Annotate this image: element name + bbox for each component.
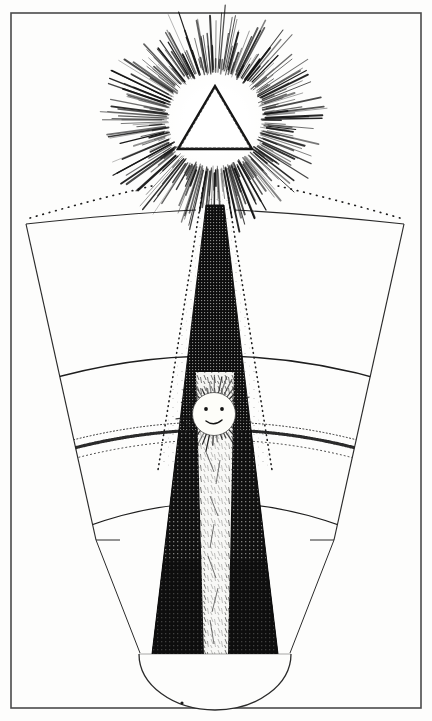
receiving-bowl <box>139 654 291 710</box>
fan-top-right-edge <box>234 210 404 224</box>
fan-left-lower-extension <box>96 540 140 653</box>
fan-right-lower-extension <box>290 540 334 653</box>
sun-disc <box>193 393 236 436</box>
fan-top-left-edge <box>26 210 196 224</box>
fan-dotted-shoulder-left <box>30 186 152 218</box>
radiant-glory <box>100 5 327 232</box>
fan-dotted-shoulder-right <box>278 186 400 218</box>
sun-left-eye <box>204 407 208 411</box>
engraving-plate <box>0 0 432 721</box>
bowl-mark <box>180 701 183 704</box>
illustration-canvas <box>0 0 432 721</box>
sun-right-eye <box>220 407 224 411</box>
